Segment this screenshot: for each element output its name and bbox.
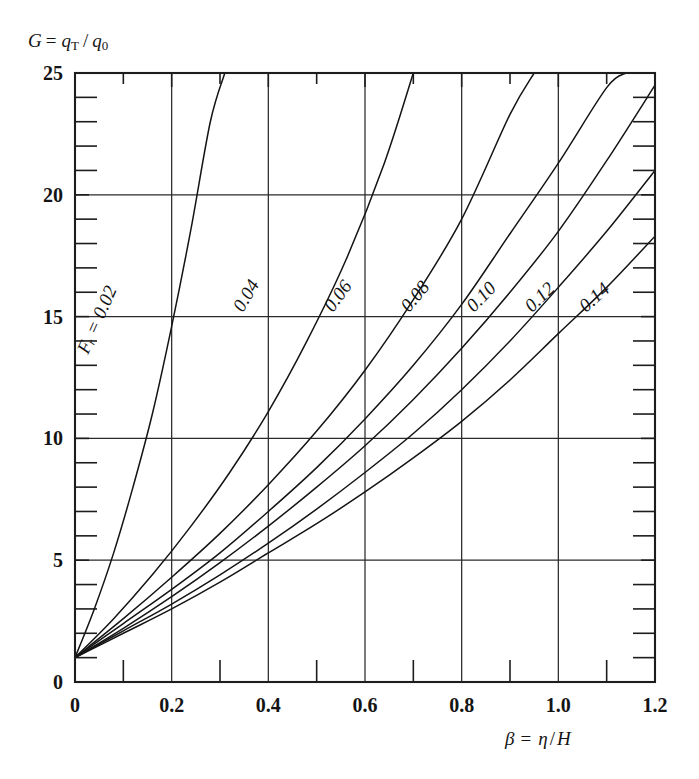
x-tick-label: 0.6 — [353, 694, 378, 716]
y-title-q-0: q — [92, 30, 102, 51]
y-tick-label: 25 — [43, 62, 63, 84]
y-title-slash: / — [83, 30, 89, 51]
x-title-eta: η — [538, 728, 547, 749]
svg-text:β=η/H: β=η/H — [504, 728, 572, 749]
y-title-equals: = — [46, 30, 57, 51]
y-tick-label: 15 — [43, 306, 63, 328]
y-title-sub-0: 0 — [102, 38, 109, 53]
y-tick-label: 20 — [43, 184, 63, 206]
y-tick-label: 5 — [53, 549, 63, 571]
x-title-equals: = — [520, 728, 531, 749]
x-tick-label: 0 — [70, 694, 80, 716]
y-tick-label: 0 — [53, 671, 63, 693]
y-title-g: G — [28, 30, 42, 51]
x-tick-label: 1.0 — [546, 694, 571, 716]
chart-canvas: 00.20.40.60.81.01.2 0510152025 Fᵣ = 0.02… — [0, 0, 699, 779]
x-tick-label: 0.8 — [449, 694, 474, 716]
x-tick-label: 1.2 — [643, 694, 668, 716]
x-tick-label: 0.2 — [159, 694, 184, 716]
x-title-h: H — [556, 728, 572, 749]
x-title-slash: / — [550, 728, 556, 749]
y-axis-tick-labels: 0510152025 — [43, 62, 63, 693]
y-title-sub-t: T — [71, 38, 79, 53]
x-axis-title: β=η/H — [504, 728, 572, 749]
figure-container: 00.20.40.60.81.01.2 0510152025 Fᵣ = 0.02… — [0, 0, 699, 779]
x-title-beta: β — [504, 728, 515, 749]
x-tick-label: 0.4 — [256, 694, 281, 716]
y-tick-label: 10 — [43, 427, 63, 449]
y-title-q-t: q — [61, 30, 71, 51]
svg-text:G=qT/q0: G=qT/q0 — [28, 30, 108, 53]
x-axis-tick-labels: 00.20.40.60.81.01.2 — [70, 694, 668, 716]
y-axis-title: G=qT/q0 — [28, 30, 108, 53]
